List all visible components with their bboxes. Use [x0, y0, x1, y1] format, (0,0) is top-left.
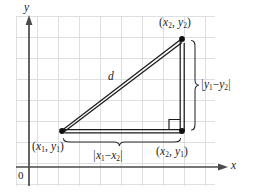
sub-a: 1 — [101, 154, 105, 163]
figure-canvas — [0, 0, 257, 196]
horizontal-leg-label: |x1−x2| — [93, 150, 123, 162]
abs-bar-close: | — [228, 78, 231, 90]
vertex-dot-lower-right — [179, 128, 185, 134]
hypotenuse-label: d — [108, 71, 114, 83]
sub-y: 1 — [56, 145, 60, 154]
origin-label: 0 — [18, 170, 24, 181]
point-label-upper-right: (x2, y2) — [159, 17, 191, 29]
sub-a: 1 — [209, 83, 213, 92]
paren-close: ) — [187, 16, 191, 28]
paren-close: ) — [184, 145, 188, 157]
point-label-lower-right: (x2, y1) — [156, 146, 188, 158]
abs-bar-close: | — [120, 149, 123, 161]
vertex-dot-upper-right — [179, 36, 185, 42]
y-axis-label: y — [24, 2, 29, 14]
sub-x: 2 — [168, 21, 172, 30]
sub-b: 2 — [224, 83, 228, 92]
point-label-lower-left: (x1, y1) — [32, 141, 64, 153]
sub-x: 2 — [165, 150, 169, 159]
sub-x: 1 — [41, 145, 45, 154]
distance-formula-figure: y x 0 (x2, y2) (x1, y1) (x2, y1) d |y1−y… — [0, 0, 257, 196]
sub-y: 2 — [183, 21, 187, 30]
sub-b: 2 — [116, 154, 120, 163]
paren-close: ) — [60, 140, 64, 152]
x-axis-label: x — [231, 160, 236, 172]
vertex-dot-lower-left — [59, 128, 65, 134]
vertical-leg-label: |y1−y2| — [201, 79, 231, 91]
sub-y: 1 — [180, 150, 184, 159]
